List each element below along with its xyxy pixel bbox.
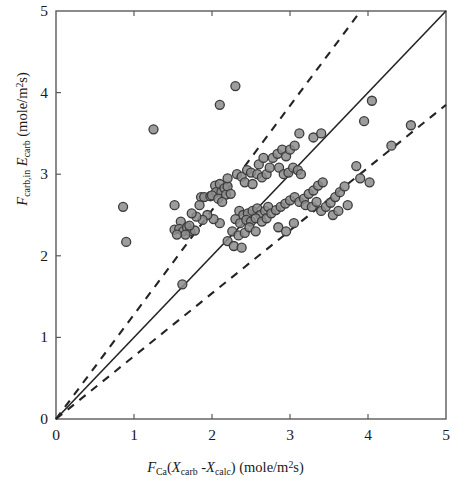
data-point xyxy=(215,100,224,109)
data-point xyxy=(122,237,131,246)
x-axis-label: FCa(Xcarb -Xcalc) (mole/m2s) xyxy=(0,459,451,477)
data-point xyxy=(231,82,240,91)
data-point xyxy=(406,121,415,130)
data-point xyxy=(367,96,376,105)
data-point xyxy=(248,179,257,188)
data-point xyxy=(290,141,299,150)
data-point xyxy=(259,153,268,162)
data-point xyxy=(317,129,326,138)
data-point xyxy=(119,202,128,211)
scatter-plot-figure: 012345012345 FCa(Xcarb -Xcalc) (mole/m2s… xyxy=(0,0,451,479)
data-point xyxy=(187,209,196,218)
data-point xyxy=(295,129,304,138)
y-tick-label: 0 xyxy=(40,411,48,427)
y-tick-label: 5 xyxy=(40,3,48,19)
data-point xyxy=(237,243,246,252)
data-point xyxy=(149,125,158,134)
y-tick-label: 3 xyxy=(40,166,48,182)
data-point xyxy=(356,174,365,183)
x-tick-label: 3 xyxy=(286,427,294,443)
data-point xyxy=(318,178,327,187)
data-point xyxy=(352,162,361,171)
data-point xyxy=(226,189,235,198)
data-point xyxy=(185,221,194,230)
y-tick-label: 2 xyxy=(40,248,48,264)
data-point xyxy=(251,227,260,236)
data-point xyxy=(178,280,187,289)
data-point xyxy=(312,197,321,206)
data-point xyxy=(218,197,227,206)
data-point xyxy=(170,201,179,210)
y-axis-label: Fcarb,in Ecarb (mole/m2s) xyxy=(14,9,32,269)
data-point xyxy=(265,163,274,172)
data-point xyxy=(334,206,343,215)
x-tick-label: 2 xyxy=(208,427,216,443)
x-tick-label: 0 xyxy=(52,427,60,443)
plot-canvas xyxy=(0,0,451,479)
data-point xyxy=(340,182,349,191)
x-tick-label: 4 xyxy=(364,427,372,443)
data-point xyxy=(181,230,190,239)
data-point xyxy=(296,170,305,179)
data-point xyxy=(172,230,181,239)
data-point xyxy=(195,201,204,210)
x-tick-label: 5 xyxy=(442,427,450,443)
data-point xyxy=(282,227,291,236)
y-tick-label: 4 xyxy=(40,85,48,101)
data-point xyxy=(360,117,369,126)
x-tick-label: 1 xyxy=(130,427,138,443)
data-point xyxy=(343,201,352,210)
data-point xyxy=(387,141,396,150)
y-tick-label: 1 xyxy=(40,330,48,346)
data-point xyxy=(289,219,298,228)
data-point xyxy=(223,174,232,183)
data-point xyxy=(365,178,374,187)
